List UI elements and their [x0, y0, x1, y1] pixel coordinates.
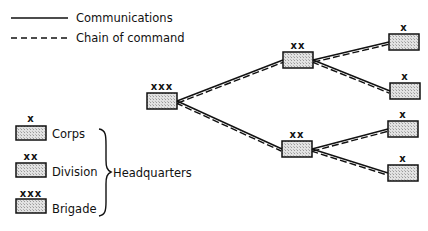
headquarters-box: [388, 121, 418, 137]
corps-node-2-2: x: [388, 153, 418, 181]
key-item-brigade: xxx Brigade: [16, 188, 97, 216]
chain-of-command-line: [312, 62, 389, 93]
headquarters-label: Headquarters: [113, 166, 192, 180]
corps-mark: x: [27, 113, 34, 124]
communications-line: [177, 101, 282, 149]
key-item-division: xx Division: [16, 151, 98, 179]
brigade-mark: xxx: [20, 188, 42, 199]
headquarters-key: x Corps xx Division xxx Brigade Headquar…: [16, 113, 192, 216]
link-brigade-to-division-2: [176, 101, 282, 151]
corps-node-2-1: x: [388, 109, 418, 137]
corps-node-1-2: x: [390, 71, 420, 99]
division-mark: xx: [24, 151, 39, 162]
chain-of-command-line: [178, 62, 284, 103]
echelon-mark: xx: [291, 40, 306, 51]
hierarchy-nodes: xxxxxxxxxxx: [147, 22, 420, 181]
communications-line: [313, 42, 389, 60]
chain-of-command-line: [176, 103, 281, 151]
echelon-mark: x: [400, 22, 407, 33]
brigade-symbol: [16, 199, 46, 213]
echelon-mark: x: [399, 153, 406, 164]
division-label: Division: [52, 165, 98, 179]
headquarters-box: [390, 83, 420, 99]
echelon-mark: xxx: [151, 81, 173, 92]
key-item-corps: x Corps: [16, 113, 85, 141]
headquarters-box: [282, 141, 312, 157]
headquarters-box: [147, 93, 177, 109]
link-division-2-to-corps-2: [311, 149, 388, 175]
communications-line: [312, 129, 388, 149]
chain-of-command-line: [313, 131, 389, 151]
link-brigade-to-division-1: [177, 60, 284, 103]
brigade-label: Brigade: [52, 202, 97, 216]
headquarters-box: [389, 34, 419, 50]
communications-label: Communications: [76, 11, 173, 25]
chain-of-command-line: [311, 151, 387, 175]
division-node-2: xx: [282, 129, 312, 157]
link-division-1-to-corps-1: [313, 42, 390, 62]
echelon-mark: x: [399, 109, 406, 120]
link-division-2-to-corps-1: [312, 129, 389, 151]
communications-line: [313, 60, 390, 91]
corps-label: Corps: [52, 127, 85, 141]
echelon-mark: x: [401, 71, 408, 82]
communications-line: [177, 60, 283, 101]
line-legend: Communications Chain of command: [11, 11, 185, 45]
curly-brace: [99, 129, 111, 216]
link-division-1-to-corps-2: [312, 60, 390, 93]
hierarchy-diagram: Communications Chain of command xxxxxxxx…: [0, 0, 428, 231]
corps-symbol: [16, 126, 46, 140]
division-symbol: [16, 163, 46, 177]
communications-line: [312, 149, 388, 173]
corps-node-1-1: x: [389, 22, 419, 50]
division-node-1: xx: [283, 40, 313, 68]
headquarters-box: [283, 52, 313, 68]
headquarters-box: [388, 165, 418, 181]
echelon-mark: xx: [290, 129, 305, 140]
chain-of-command-label: Chain of command: [76, 31, 185, 45]
chain-of-command-line: [314, 44, 390, 62]
brigade-node: xxx: [147, 81, 177, 109]
